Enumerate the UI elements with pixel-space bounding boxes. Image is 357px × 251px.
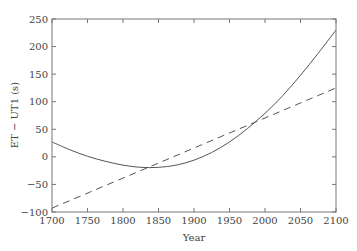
y-tick-label: 100 — [29, 96, 48, 107]
chart: 170017501800185019001950200020502100 −10… — [0, 0, 357, 251]
y-axis-label: ET − UT1 (s) — [9, 82, 20, 148]
series-linear-trend — [52, 88, 336, 208]
series-et-ut1 — [52, 30, 336, 168]
y-tick-label: 50 — [35, 124, 48, 135]
x-tick-label: 2100 — [323, 215, 348, 226]
y-tick-label: −50 — [27, 179, 48, 190]
x-tick-label: 1950 — [217, 215, 242, 226]
plot-frame — [52, 19, 336, 212]
x-tick-label: 2000 — [252, 215, 277, 226]
y-tick-label: 250 — [29, 14, 48, 25]
x-tick-label: 1750 — [75, 215, 100, 226]
plot-lines — [52, 30, 336, 208]
x-axis: 170017501800185019001950200020502100 — [39, 19, 348, 226]
y-tick-label: −100 — [21, 207, 48, 218]
x-tick-label: 1850 — [146, 215, 171, 226]
x-axis-label: Year — [182, 232, 206, 243]
x-tick-label: 1800 — [110, 215, 135, 226]
y-tick-label: 200 — [29, 41, 48, 52]
x-tick-label: 2050 — [288, 215, 313, 226]
y-tick-label: 150 — [29, 69, 48, 80]
y-axis: −100−50050100150200250 — [21, 14, 336, 218]
x-tick-label: 1900 — [181, 215, 206, 226]
y-tick-label: 0 — [42, 151, 48, 162]
